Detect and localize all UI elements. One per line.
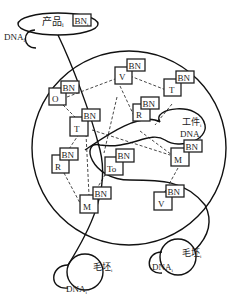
blank-right-label: 毛坯i [182,247,202,259]
node-R-left: R BN [52,148,78,173]
product-dna-label: DNAi [4,32,26,43]
node-M-bottom: M BN [80,187,111,213]
svg-text:M: M [174,155,182,165]
workpiece-dna-label: DNAi [180,129,202,140]
node-T-right: T BN [164,71,194,96]
diagram-canvas: 产品i DNAi BNi 工件i DNAi 毛坯i DNAi 毛坯i DNAi … [0,0,229,301]
svg-text:To: To [107,164,117,174]
node-To: To BN [105,149,134,175]
svg-text:R: R [136,110,142,120]
svg-text:BN: BN [118,151,131,161]
svg-text:BN: BN [62,150,75,160]
svg-text:BN: BN [168,187,181,197]
svg-text:BN: BN [84,111,97,121]
svg-text:V: V [158,199,165,209]
svg-text:BN: BN [178,73,191,83]
blank-left-dna-label: DNAi [66,284,88,295]
workpiece-label: 工件i [182,116,202,128]
product-label: 产品i [42,15,64,28]
svg-text:BN: BN [186,142,199,152]
dashed-connections [63,76,178,203]
svg-text:O: O [52,94,59,104]
node-V-bottom: V BN [154,185,184,210]
product-bn-label: BNi [75,16,90,27]
blank-right-dna-label: DNAi [152,262,174,273]
node-R-top: R BN [133,97,159,121]
svg-text:T: T [169,85,175,95]
svg-text:M: M [83,202,91,212]
svg-text:T: T [74,124,80,134]
svg-text:R: R [55,162,61,172]
node-O: O BN [49,81,79,105]
svg-text:BN: BN [63,83,76,93]
svg-text:V: V [119,72,126,82]
blank-left-label: 毛坯i [93,261,113,273]
svg-text:BN: BN [143,99,156,109]
svg-text:BN: BN [129,61,142,71]
svg-text:BN: BN [95,189,108,199]
